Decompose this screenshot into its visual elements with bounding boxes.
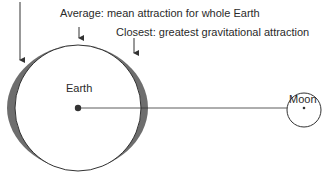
- tidal-diagram: Average: mean attraction for whole Earth…: [0, 0, 325, 175]
- earth-label: Earth: [66, 82, 92, 94]
- moon-label: Moon: [289, 93, 317, 105]
- moon-center-dot: [303, 107, 306, 110]
- average-label: Average: mean attraction for whole Earth: [60, 7, 260, 19]
- closest-label: Closest: greatest gravitational attracti…: [116, 26, 309, 38]
